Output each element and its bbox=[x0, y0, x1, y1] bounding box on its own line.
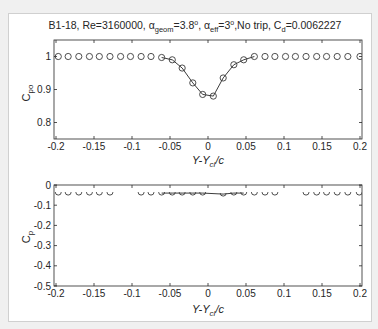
x-tick-label: 0.2 bbox=[353, 288, 367, 299]
top-x-axis-label: Y-Ycl/c bbox=[192, 154, 224, 169]
x-tick-label: 0.05 bbox=[236, 141, 256, 152]
x-tick-label: 0 bbox=[205, 288, 211, 299]
y-tick-label: -0.4 bbox=[34, 260, 52, 271]
x-tick-label: 0.1 bbox=[277, 141, 291, 152]
x-tick-label: 0 bbox=[205, 141, 211, 152]
top-y-axis-label: Cpo bbox=[20, 84, 35, 101]
y-tick-label: -0.5 bbox=[34, 281, 52, 292]
x-tick-label: -0.05 bbox=[159, 141, 182, 152]
y-tick-label: 0 bbox=[45, 180, 51, 191]
axes-box bbox=[54, 185, 362, 286]
bottom-x-axis-label: Y-Ycl/c bbox=[192, 303, 224, 318]
x-tick-label: -0.15 bbox=[83, 288, 106, 299]
axes-box bbox=[54, 40, 362, 139]
bottom-y-axis-label: Cp bbox=[20, 230, 35, 243]
y-tick-label: 0.9 bbox=[37, 84, 51, 95]
x-tick-label: -0.05 bbox=[159, 288, 182, 299]
y-tick-label: -0.3 bbox=[34, 240, 52, 251]
bottom-plot-cp: -0.2-0.15-0.1-0.0500.050.10.150.2-0.5-0.… bbox=[34, 180, 368, 300]
y-tick-label: 1 bbox=[45, 51, 51, 62]
figure-window: B1-18, Re=3160000, αgeom=3.8o, αeff=3o,N… bbox=[8, 13, 372, 322]
x-tick-label: -0.2 bbox=[47, 141, 65, 152]
y-tick-label: 0.8 bbox=[37, 117, 51, 128]
chart-canvas: B1-18, Re=3160000, αgeom=3.8o, αeff=3o,N… bbox=[9, 14, 373, 323]
x-tick-label: -0.1 bbox=[123, 141, 141, 152]
x-tick-label: 0.15 bbox=[312, 288, 332, 299]
x-tick-label: 0.1 bbox=[277, 288, 291, 299]
x-tick-label: 0.05 bbox=[236, 288, 256, 299]
y-tick-label: -0.1 bbox=[34, 200, 52, 211]
top-plot-cpo: -0.2-0.15-0.1-0.0500.050.10.150.20.80.91 bbox=[37, 40, 367, 152]
x-tick-label: 0.15 bbox=[312, 141, 332, 152]
x-tick-label: 0.2 bbox=[353, 141, 367, 152]
x-tick-label: -0.15 bbox=[83, 141, 106, 152]
chart-title: B1-18, Re=3160000, αgeom=3.8o, αeff=3o,N… bbox=[49, 19, 342, 34]
x-tick-label: -0.1 bbox=[123, 288, 141, 299]
y-tick-label: -0.2 bbox=[34, 220, 52, 231]
